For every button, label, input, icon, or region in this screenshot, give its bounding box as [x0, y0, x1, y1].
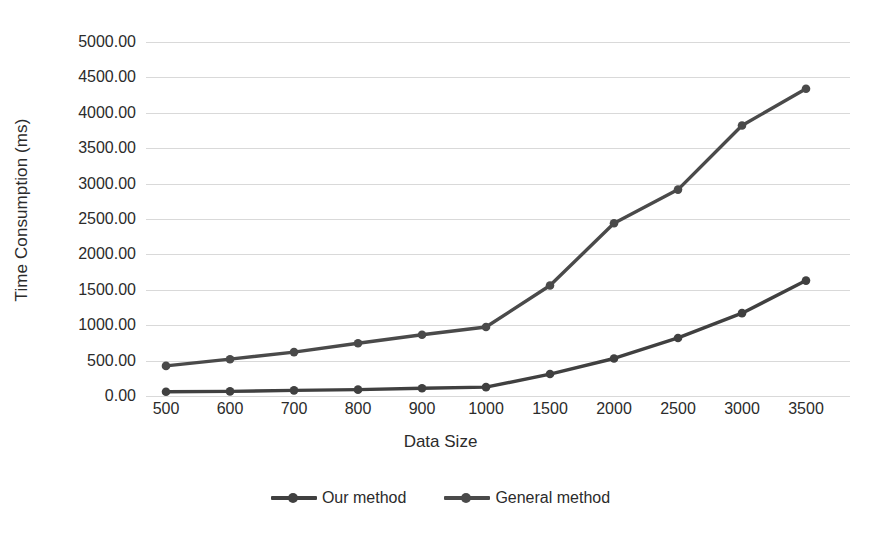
- x-axis-tick-labels: 500600700800900100015002000250030003500: [146, 400, 850, 426]
- series-line: [166, 281, 806, 392]
- data-point-marker: [546, 281, 555, 290]
- data-point-marker: [354, 339, 363, 348]
- x-tick-label: 800: [345, 400, 372, 418]
- data-point-marker: [802, 84, 811, 93]
- legend-item[interactable]: Our method: [271, 489, 406, 507]
- x-tick-label: 3500: [788, 400, 824, 418]
- x-tick-label: 500: [153, 400, 180, 418]
- y-axis-tick-labels: 0.00500.001000.001500.002000.002500.0030…: [44, 0, 144, 420]
- data-point-marker: [226, 355, 235, 364]
- y-tick-label: 4000.00: [78, 104, 136, 122]
- data-point-marker: [162, 387, 171, 396]
- x-tick-label: 3000: [724, 400, 760, 418]
- x-tick-label: 900: [409, 400, 436, 418]
- x-tick-label: 1000: [468, 400, 504, 418]
- data-point-marker: [354, 385, 363, 394]
- legend-label: Our method: [322, 489, 406, 507]
- y-tick-label: 500.00: [87, 352, 136, 370]
- data-point-marker: [290, 348, 299, 357]
- data-point-marker: [610, 219, 619, 228]
- y-tick-label: 0.00: [105, 387, 136, 405]
- x-tick-label: 600: [217, 400, 244, 418]
- gridline: [146, 396, 850, 397]
- data-point-marker: [418, 330, 427, 339]
- y-tick-label: 3000.00: [78, 175, 136, 193]
- line-chart-figure: Time Consumption (ms) 0.00500.001000.001…: [0, 0, 881, 543]
- x-tick-label: 1500: [532, 400, 568, 418]
- series-layer: [146, 42, 850, 396]
- y-tick-label: 1500.00: [78, 281, 136, 299]
- y-tick-label: 4500.00: [78, 68, 136, 86]
- y-tick-label: 2500.00: [78, 210, 136, 228]
- legend-swatch: [271, 491, 317, 505]
- plot-area: [146, 42, 850, 396]
- data-point-marker: [162, 362, 171, 371]
- y-axis-title: Time Consumption (ms): [0, 0, 44, 420]
- data-point-marker: [482, 323, 491, 332]
- data-point-marker: [226, 387, 235, 396]
- data-point-marker: [482, 383, 491, 392]
- x-tick-label: 2000: [596, 400, 632, 418]
- data-point-marker: [738, 309, 747, 318]
- legend-item[interactable]: General method: [444, 489, 610, 507]
- data-point-marker: [674, 185, 683, 194]
- y-axis-title-text: Time Consumption (ms): [12, 119, 32, 302]
- y-tick-label: 5000.00: [78, 33, 136, 51]
- y-tick-label: 2000.00: [78, 245, 136, 263]
- legend-swatch: [444, 491, 490, 505]
- data-point-marker: [674, 334, 683, 343]
- data-point-marker: [418, 384, 427, 393]
- x-tick-label: 2500: [660, 400, 696, 418]
- data-point-marker: [290, 386, 299, 395]
- x-axis-title: Data Size: [0, 432, 881, 452]
- chart-legend: Our methodGeneral method: [0, 489, 881, 507]
- legend-marker-icon: [288, 493, 298, 503]
- legend-label: General method: [495, 489, 610, 507]
- data-point-marker: [738, 121, 747, 130]
- y-tick-label: 3500.00: [78, 139, 136, 157]
- y-tick-label: 1000.00: [78, 316, 136, 334]
- data-point-marker: [546, 370, 555, 379]
- legend-marker-icon: [461, 493, 471, 503]
- x-tick-label: 700: [281, 400, 308, 418]
- data-point-marker: [802, 276, 811, 285]
- data-point-marker: [610, 354, 619, 363]
